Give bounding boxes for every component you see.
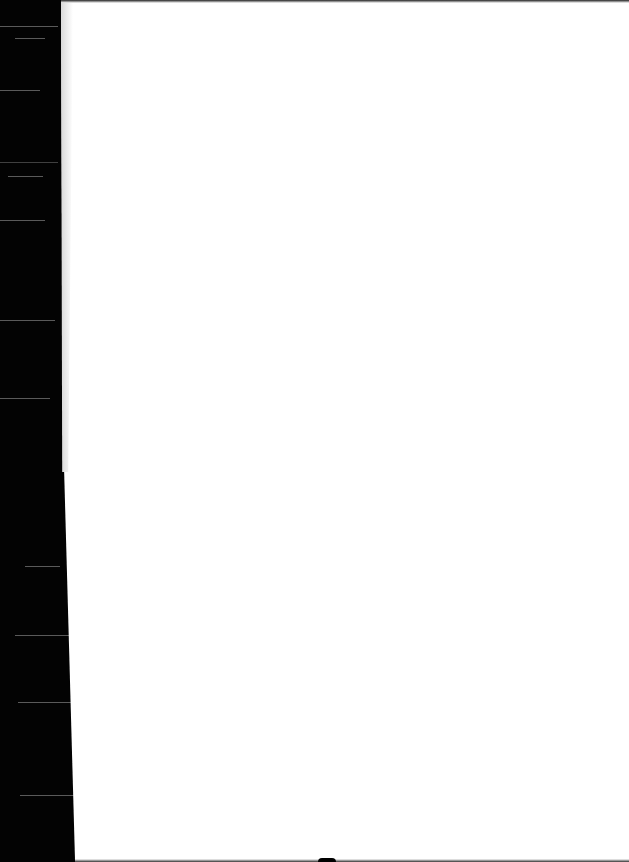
scan-artifact-line: [25, 566, 60, 567]
scan-artifact-line: [18, 702, 73, 703]
scan-artifact-line: [15, 38, 45, 39]
scan-artifact-line: [0, 90, 40, 91]
scan-artifact-line: [0, 320, 55, 321]
scan-artifact-line: [20, 795, 75, 796]
scan-artifact-line: [8, 176, 43, 177]
scan-artifact-line: [0, 220, 45, 221]
scan-artifact-line: [0, 162, 58, 163]
scanner-clip: [318, 858, 336, 862]
scan-artifact-line: [0, 26, 58, 27]
scan-artifact-line: [15, 635, 70, 636]
page-top-edge: [61, 0, 629, 3]
blank-page: [61, 2, 629, 860]
scan-artifact-line: [0, 398, 50, 399]
